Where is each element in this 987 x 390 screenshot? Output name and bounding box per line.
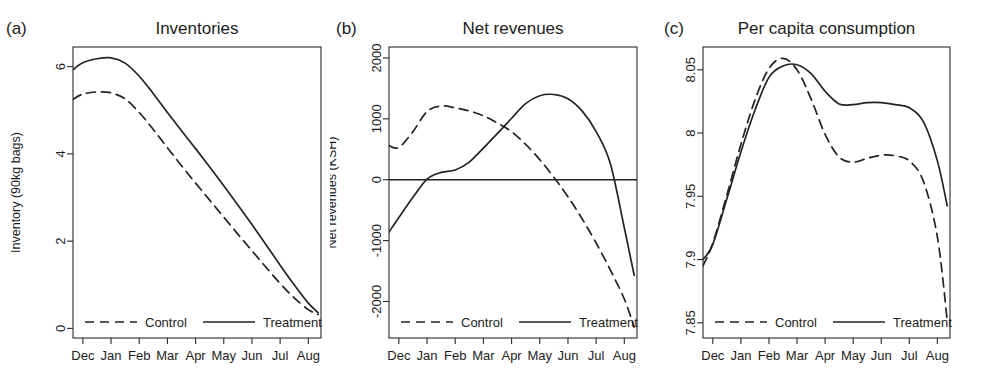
series-line-control	[703, 58, 947, 320]
panel-title: Net revenues	[462, 19, 563, 38]
y-tick-label: 6	[53, 63, 68, 70]
x-tick-label: Feb	[758, 348, 780, 363]
x-tick-label: Dec	[71, 348, 95, 363]
x-tick-label: Feb	[444, 348, 466, 363]
y-tick-label: 4	[53, 150, 68, 157]
panel-net-revenues: (b)Net revenuesNet revenues (KSH)-2000-1…	[330, 0, 658, 390]
x-tick-label: Mar	[472, 348, 495, 363]
y-axis-title: Net revenues (KSH)	[330, 137, 339, 249]
panel-inventories: (a)InventoriesInventory (90kg bags)0246D…	[0, 0, 330, 390]
series-line-control	[389, 106, 634, 327]
x-tick-label: Aug	[926, 348, 949, 363]
series-line-treatment	[389, 94, 634, 275]
x-tick-label: Mar	[786, 348, 809, 363]
y-tick-label: 2	[53, 238, 68, 245]
y-axis-title: Inventory (90kg bags)	[9, 132, 23, 253]
legend-label-treatment: Treatment	[579, 315, 638, 330]
x-tick-label: Feb	[128, 348, 150, 363]
x-tick-label: May	[841, 348, 866, 363]
y-tick-label: 2000	[369, 43, 384, 72]
y-tick-label: 8	[683, 129, 698, 136]
series-line-treatment	[73, 58, 318, 313]
legend-label-treatment: Treatment	[263, 315, 322, 330]
series-line-control	[73, 92, 318, 315]
y-tick-label: 0	[369, 176, 384, 183]
legend-label-control: Control	[461, 315, 503, 330]
panel-tag: (a)	[6, 19, 27, 38]
x-tick-label: Aug	[297, 348, 320, 363]
legend-label-control: Control	[145, 315, 187, 330]
plot-frame	[703, 47, 950, 338]
plot-frame	[73, 47, 321, 338]
x-tick-label: Dec	[701, 348, 725, 363]
x-tick-label: Apr	[815, 348, 836, 363]
y-tick-label: 1000	[369, 104, 384, 133]
chart-svg-3: (c)Per capita consumptionPer cap cons. (…	[658, 0, 987, 390]
x-tick-label: Jan	[101, 348, 122, 363]
x-tick-label: Dec	[387, 348, 411, 363]
x-tick-label: Apr	[501, 348, 522, 363]
panel-tag: (b)	[336, 19, 357, 38]
chart-svg-1: (a)InventoriesInventory (90kg bags)0246D…	[0, 0, 330, 390]
x-tick-label: May	[527, 348, 552, 363]
y-tick-label: 0	[53, 325, 68, 332]
series-line-treatment	[703, 64, 947, 260]
x-tick-label: Jun	[241, 348, 262, 363]
x-tick-label: Jul	[272, 348, 289, 363]
x-tick-label: Jan	[730, 348, 751, 363]
x-tick-label: Jul	[901, 348, 918, 363]
y-tick-label: -1000	[369, 224, 384, 257]
x-tick-label: May	[211, 348, 236, 363]
panel-tag: (c)	[664, 19, 684, 38]
panel-title: Per capita consumption	[738, 19, 916, 38]
x-tick-label: Jun	[871, 348, 892, 363]
x-tick-label: Jun	[557, 348, 578, 363]
plot-frame	[389, 47, 637, 338]
x-tick-label: Mar	[156, 348, 179, 363]
y-tick-label: -2000	[369, 285, 384, 318]
y-tick-label: 7.9	[683, 251, 698, 269]
legend-label-control: Control	[775, 315, 817, 330]
x-tick-label: Jan	[417, 348, 438, 363]
y-tick-label: 7.95	[683, 184, 698, 209]
chart-svg-2: (b)Net revenuesNet revenues (KSH)-2000-1…	[330, 0, 658, 390]
panel-title: Inventories	[155, 19, 238, 38]
panel-per-capita-consumption: (c)Per capita consumptionPer cap cons. (…	[658, 0, 987, 390]
x-tick-label: Apr	[185, 348, 206, 363]
legend-label-treatment: Treatment	[893, 315, 952, 330]
x-tick-label: Jul	[588, 348, 605, 363]
x-tick-label: Aug	[613, 348, 636, 363]
y-tick-label: 8.05	[683, 57, 698, 82]
figure-container: (a)InventoriesInventory (90kg bags)0246D…	[0, 0, 987, 390]
y-tick-label: 7.85	[683, 310, 698, 335]
